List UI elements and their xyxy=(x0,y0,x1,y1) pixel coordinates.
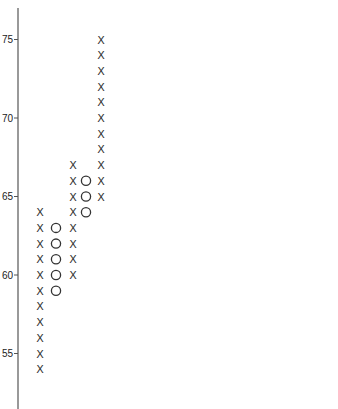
y-tick-label: 70 xyxy=(2,113,14,124)
o-mark xyxy=(51,270,60,279)
pf-column-2 xyxy=(51,223,60,295)
o-mark xyxy=(81,208,90,217)
y-tick-label: 55 xyxy=(2,348,14,359)
x-mark: X xyxy=(97,81,105,94)
x-mark: X xyxy=(69,191,77,204)
x-mark: X xyxy=(36,253,44,266)
x-mark: X xyxy=(36,222,44,235)
y-tick-label: 65 xyxy=(2,191,14,202)
x-mark: X xyxy=(69,206,77,219)
x-mark: X xyxy=(69,159,77,172)
x-mark: X xyxy=(36,348,44,361)
o-mark xyxy=(51,239,60,248)
y-tick-label: 75 xyxy=(2,34,14,45)
x-mark: X xyxy=(69,175,77,188)
y-axis: 5560657075 xyxy=(2,8,18,409)
x-mark: X xyxy=(36,238,44,251)
x-mark: X xyxy=(97,175,105,188)
y-tick-label: 60 xyxy=(2,270,14,281)
x-mark: X xyxy=(97,65,105,78)
pf-column-5: XXXXXXXXXXX xyxy=(97,34,105,204)
pf-column-3: XXXXXXXX xyxy=(69,159,77,282)
o-mark xyxy=(81,176,90,185)
pf-column-1: XXXXXXXXXXX xyxy=(36,206,44,376)
o-mark xyxy=(51,286,60,295)
x-mark: X xyxy=(69,253,77,266)
o-mark xyxy=(51,223,60,232)
chart-marks: XXXXXXXXXXXXXXXXXXXXXXXXXXXXXX xyxy=(36,34,105,377)
x-mark: X xyxy=(97,49,105,62)
x-mark: X xyxy=(97,34,105,47)
x-mark: X xyxy=(97,143,105,156)
x-mark: X xyxy=(36,316,44,329)
x-mark: X xyxy=(97,159,105,172)
o-mark xyxy=(81,192,90,201)
x-mark: X xyxy=(36,285,44,298)
x-mark: X xyxy=(36,269,44,282)
x-mark: X xyxy=(97,191,105,204)
x-mark: X xyxy=(97,112,105,125)
pf-column-4 xyxy=(81,176,90,217)
x-mark: X xyxy=(69,238,77,251)
point-and-figure-chart: 5560657075 XXXXXXXXXXXXXXXXXXXXXXXXXXXXX… xyxy=(0,0,338,409)
x-mark: X xyxy=(36,363,44,376)
x-mark: X xyxy=(36,332,44,345)
x-mark: X xyxy=(69,269,77,282)
x-mark: X xyxy=(97,96,105,109)
x-mark: X xyxy=(97,128,105,141)
x-mark: X xyxy=(36,206,44,219)
x-mark: X xyxy=(36,300,44,313)
x-mark: X xyxy=(69,222,77,235)
o-mark xyxy=(51,255,60,264)
